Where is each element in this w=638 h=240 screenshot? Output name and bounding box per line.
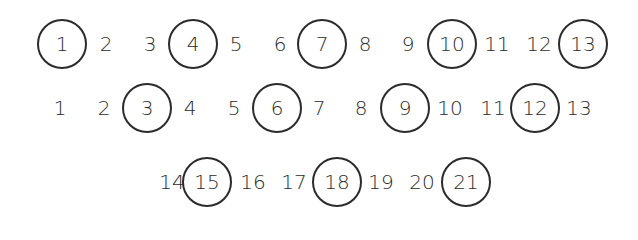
number: 3 — [144, 32, 157, 56]
number: 5 — [230, 32, 243, 56]
number: 13 — [566, 96, 591, 120]
number: 7 — [313, 96, 326, 120]
circled-number: 18 — [324, 170, 349, 194]
circled-number: 21 — [453, 170, 478, 194]
circled-number: 12 — [522, 96, 547, 120]
number: 1 — [54, 96, 67, 120]
number: 2 — [100, 32, 113, 56]
circled-number: 1 — [56, 32, 69, 56]
number: 16 — [240, 170, 265, 194]
circled-number: 3 — [141, 96, 154, 120]
number: 11 — [480, 96, 505, 120]
circled-number: 4 — [187, 32, 200, 56]
number: 8 — [355, 96, 368, 120]
number: 17 — [281, 170, 306, 194]
number: 14 — [159, 170, 184, 194]
number: 19 — [368, 170, 393, 194]
circled-number: 6 — [271, 96, 284, 120]
circled-number: 9 — [399, 96, 412, 120]
number: 11 — [484, 32, 509, 56]
number: 6 — [274, 32, 287, 56]
number: 8 — [359, 32, 372, 56]
number: 4 — [184, 96, 197, 120]
circled-number: 13 — [570, 32, 595, 56]
circled-number: 10 — [439, 32, 464, 56]
number: 5 — [228, 96, 241, 120]
number: 2 — [98, 96, 111, 120]
number: 20 — [409, 170, 434, 194]
number: 12 — [526, 32, 551, 56]
circled-number: 7 — [316, 32, 329, 56]
circled-number: 15 — [194, 170, 219, 194]
number: 10 — [437, 96, 462, 120]
number: 9 — [402, 32, 415, 56]
